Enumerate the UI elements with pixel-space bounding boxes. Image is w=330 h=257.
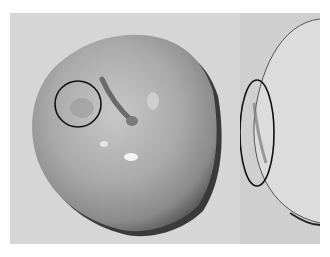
highlight xyxy=(124,153,138,161)
apple-top-view-image xyxy=(10,13,240,244)
apple-stem-cavity xyxy=(126,116,138,126)
highlight xyxy=(147,92,159,110)
apple-body xyxy=(32,35,217,231)
apple-side-body xyxy=(254,19,320,223)
apple-side-view-image xyxy=(240,13,320,244)
apple-side-view-panel xyxy=(240,13,320,244)
highlight xyxy=(100,141,108,147)
apple-top-view-panel xyxy=(10,13,240,244)
apple-photo xyxy=(10,13,320,244)
defect-spot xyxy=(70,98,94,118)
